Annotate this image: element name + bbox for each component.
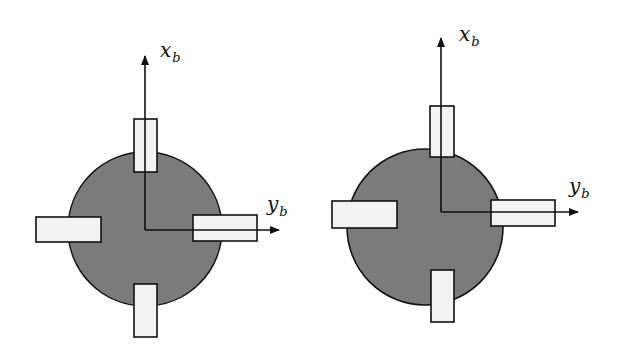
x-axis-label: xb xyxy=(459,22,480,49)
thruster-bottom xyxy=(134,284,157,337)
diagram-left: xb yb xyxy=(36,38,288,337)
x-axis-label: xb xyxy=(160,38,181,65)
y-axis-label: yb xyxy=(568,174,590,201)
thruster-right xyxy=(193,215,257,241)
thruster-top xyxy=(430,106,454,157)
y-axis-label: yb xyxy=(266,192,288,219)
thruster-right xyxy=(491,200,555,226)
thruster-left xyxy=(36,217,101,242)
diagram-right: xb yb xyxy=(332,22,590,322)
thruster-bottom xyxy=(431,270,454,322)
thruster-configuration-diagram: xb yb xb yb xyxy=(0,0,622,357)
thruster-left xyxy=(332,201,397,228)
